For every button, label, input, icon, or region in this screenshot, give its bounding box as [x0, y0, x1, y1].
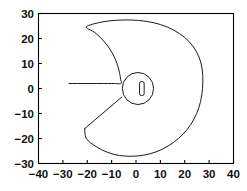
inner-slot: [140, 82, 145, 96]
diagonal-cut: [85, 97, 122, 129]
x-tick-label: −10: [102, 168, 122, 180]
y-tick-label: 10: [21, 58, 34, 70]
axis-tick-labels: −40−30−20−10010203040−30−20−100102030: [14, 8, 239, 180]
data-curves: [69, 20, 203, 156]
axis-ticks: [39, 14, 234, 164]
y-tick-label: 30: [21, 8, 34, 20]
x-tick-label: 10: [154, 168, 167, 180]
y-tick-label: 0: [28, 83, 34, 95]
y-tick-label: 20: [21, 33, 34, 45]
x-tick-label: 40: [227, 168, 240, 180]
x-tick-label: −30: [53, 168, 73, 180]
x-tick-label: 30: [203, 168, 216, 180]
plot-border: [39, 14, 234, 164]
y-tick-label: −30: [14, 158, 34, 170]
y-tick-label: −20: [14, 133, 34, 145]
x-tick-label: −20: [77, 168, 97, 180]
outer-spiral-boundary: [69, 20, 203, 156]
plot-canvas: −40−30−20−10010203040−30−20−100102030: [0, 0, 247, 191]
inner-circle: [122, 73, 153, 105]
x-tick-label: 20: [178, 168, 191, 180]
x-tick-label: −40: [29, 168, 49, 180]
x-tick-label: 0: [133, 168, 139, 180]
y-tick-label: −10: [14, 108, 34, 120]
axes-frame: [39, 14, 234, 164]
chart-figure: −40−30−20−10010203040−30−20−100102030: [0, 0, 247, 191]
